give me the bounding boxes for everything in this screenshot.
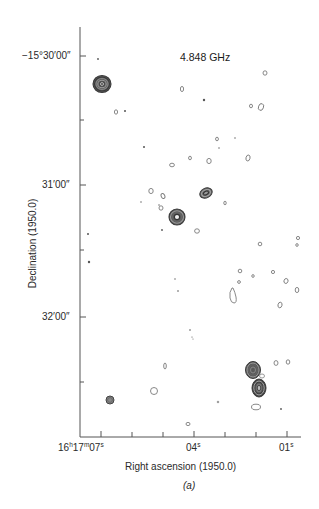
- source-south-upper-contours: [246, 362, 265, 379]
- source-sw-contours: [106, 396, 114, 404]
- source-ne-contours: [198, 186, 214, 200]
- noise-dots: [87, 58, 282, 410]
- source-nw-contours: [93, 76, 111, 93]
- plot-area: [0, 0, 319, 509]
- axes: [80, 27, 301, 437]
- source-south-lower-contours: [252, 379, 266, 397]
- source-central-contours: [169, 209, 185, 225]
- contour-map-figure: 4.848 GHz −15°30′00″ 31′00″ 32′00″ Decli…: [0, 0, 319, 509]
- faint-contours: [114, 71, 299, 426]
